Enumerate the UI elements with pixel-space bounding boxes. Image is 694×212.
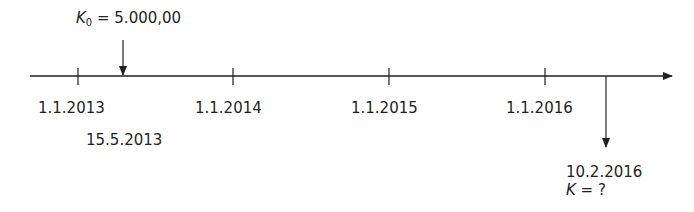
equals: = [576,181,598,199]
k-symbol: K [76,9,86,27]
deposit-date-label: 15.5.2013 [86,131,162,149]
tick-label-2016: 1.1.2016 [506,99,573,117]
k-symbol: K [566,181,576,199]
unknown-value: ? [598,181,606,199]
end-capital-label: K = ? [566,181,606,199]
end-date-label: 10.2.2016 [566,163,642,181]
equals: = [92,9,114,27]
tick-label-2013: 1.1.2013 [38,99,105,117]
tick-label-2015: 1.1.2015 [351,99,418,117]
tick-label-2014: 1.1.2014 [195,99,262,117]
start-capital-label: K0 = 5.000,00 [76,9,181,32]
start-amount: 5.000,00 [114,9,181,27]
